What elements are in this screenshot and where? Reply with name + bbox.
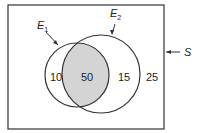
venn-diagram: E1 E2 S 10 50 15 25 <box>0 0 198 133</box>
region-outside-value: 25 <box>146 71 158 83</box>
s-arrowhead-icon <box>166 50 171 54</box>
set-e1-label: E1 <box>37 19 48 33</box>
region-e2-only-value: 15 <box>118 71 130 83</box>
set-e2-label: E2 <box>110 7 121 21</box>
region-e1-only-value: 10 <box>50 71 62 83</box>
e2-arrowhead-icon <box>110 30 114 35</box>
region-intersection-value: 50 <box>81 71 93 83</box>
universe-label: S <box>184 46 192 58</box>
